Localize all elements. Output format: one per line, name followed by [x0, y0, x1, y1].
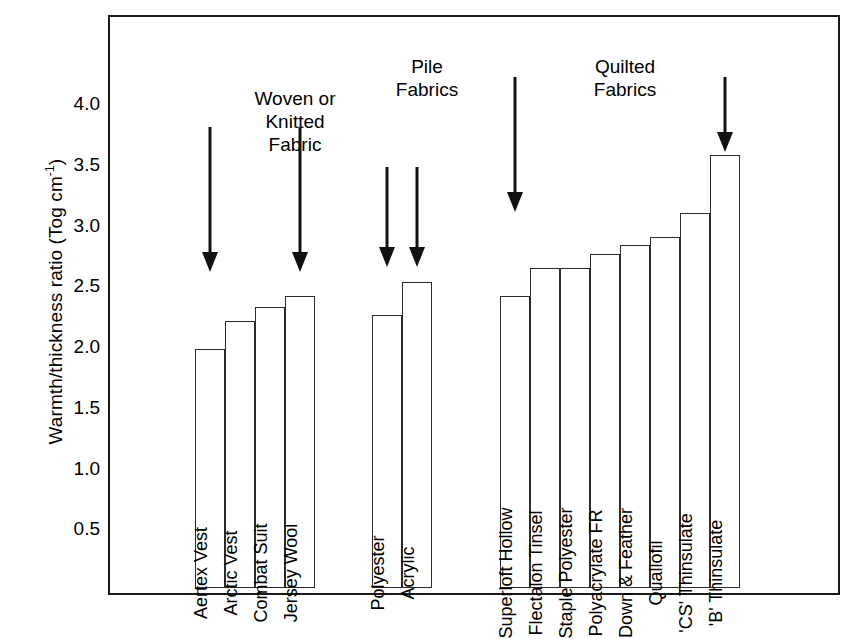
y-axis-tick-labels: 4.03.53.02.52.01.51.00.5 — [40, 0, 100, 616]
bar-label: Aertex Vest — [192, 527, 210, 619]
bar-label: Arctic Vest — [222, 530, 240, 615]
bar-label: Combat Suit — [252, 523, 270, 622]
bar: Jersey Wool — [285, 296, 315, 588]
bar-label: Jersey Wool — [282, 524, 300, 623]
bar-label: 'B' Thinsulate — [707, 520, 725, 627]
group-title-quilted-fabrics: Quilted Fabrics — [550, 55, 700, 101]
y-tick-label: 1.0 — [44, 459, 100, 478]
bar: Staple Polyester — [560, 268, 590, 588]
plot-area: Aertex VestArctic VestCombat SuitJersey … — [108, 15, 840, 595]
y-tick-label: 3.0 — [44, 216, 100, 235]
bar: Flectalon Tinsel — [530, 268, 560, 588]
y-tick-label: 1.5 — [44, 398, 100, 417]
bar: Combat Suit — [255, 307, 285, 588]
annotation-arrow-icon — [289, 127, 311, 272]
bar-label: Polyester — [369, 535, 387, 610]
y-tick-label: 2.5 — [44, 276, 100, 295]
annotation-arrow-icon — [504, 77, 526, 212]
group-title-pile-fabrics: Pile Fabrics — [372, 55, 482, 101]
bar-label: Down & Feather — [617, 508, 635, 638]
bar-label: 'CS' Thinsulate — [677, 513, 695, 633]
bar: 'CS' Thinsulate — [680, 213, 710, 588]
bar-label: Quallofil — [647, 540, 665, 605]
bar: Arctic Vest — [225, 321, 255, 588]
bar-label: Staple Polyester — [557, 507, 575, 638]
y-tick-label: 0.5 — [44, 519, 100, 538]
y-tick-label: 3.5 — [44, 155, 100, 174]
bar: Down & Feather — [620, 245, 650, 588]
bar: Aertex Vest — [195, 349, 225, 588]
bar: Superloft Hollow — [500, 296, 530, 588]
y-tick-label: 4.0 — [44, 94, 100, 113]
annotation-arrow-icon — [376, 167, 398, 267]
annotation-arrow-icon — [714, 77, 736, 152]
annotation-arrow-icon — [406, 167, 428, 267]
bar-label: Superloft Hollow — [497, 507, 515, 638]
y-tick-label: 2.0 — [44, 337, 100, 356]
bar: Quallofil — [650, 237, 680, 588]
bar: Polyacrylate FR — [590, 254, 620, 588]
bar-label: Acrylic — [399, 547, 417, 600]
bar: 'B' Thinsulate — [710, 155, 740, 588]
bar-label: Flectalon Tinsel — [527, 510, 545, 635]
bar-label: Polyacrylate FR — [587, 509, 605, 636]
bar: Acrylic — [402, 282, 432, 588]
bar: Polyester — [372, 315, 402, 588]
annotation-arrow-icon — [199, 127, 221, 272]
